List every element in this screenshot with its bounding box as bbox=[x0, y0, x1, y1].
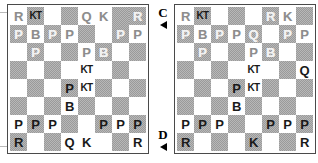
piece-white-king-g8[interactable]: K bbox=[283, 10, 292, 23]
square-d4[interactable]: P bbox=[61, 79, 78, 97]
square-h4[interactable] bbox=[129, 79, 146, 97]
square-f7[interactable] bbox=[262, 25, 279, 43]
piece-black-pawn-b2[interactable]: P bbox=[31, 118, 39, 131]
square-c7[interactable]: P bbox=[44, 25, 61, 43]
square-e5[interactable]: KT bbox=[245, 61, 262, 79]
square-e7[interactable] bbox=[78, 25, 95, 43]
square-f1[interactable] bbox=[95, 133, 112, 151]
square-b8[interactable]: KT bbox=[27, 7, 44, 25]
square-c3[interactable] bbox=[211, 97, 228, 115]
square-c7[interactable]: P bbox=[211, 25, 228, 43]
square-f1[interactable] bbox=[262, 133, 279, 151]
square-h5[interactable] bbox=[129, 61, 146, 79]
square-f6[interactable]: B bbox=[262, 43, 279, 61]
square-d6[interactable] bbox=[61, 43, 78, 61]
square-a3[interactable] bbox=[177, 97, 194, 115]
piece-white-pawn-d7[interactable]: P bbox=[232, 28, 240, 41]
square-c3[interactable] bbox=[44, 97, 61, 115]
square-f6[interactable]: B bbox=[95, 43, 112, 61]
square-c2[interactable]: P bbox=[211, 115, 228, 133]
square-g1[interactable] bbox=[112, 133, 129, 151]
square-a6[interactable] bbox=[177, 43, 194, 61]
square-a5[interactable] bbox=[177, 61, 194, 79]
square-d8[interactable] bbox=[61, 7, 78, 25]
piece-white-bishop-f6[interactable]: B bbox=[99, 46, 108, 59]
square-f7[interactable] bbox=[95, 25, 112, 43]
square-d2[interactable] bbox=[61, 115, 78, 133]
piece-black-pawn-h2[interactable]: P bbox=[133, 118, 141, 131]
square-a1[interactable]: R bbox=[177, 133, 194, 151]
piece-black-pawn-c2[interactable]: P bbox=[215, 118, 223, 131]
piece-black-rook-a1[interactable]: R bbox=[14, 136, 23, 149]
piece-black-pawn-a2[interactable]: P bbox=[181, 118, 189, 131]
square-d2[interactable] bbox=[228, 115, 245, 133]
square-d4[interactable]: P bbox=[228, 79, 245, 97]
square-g4[interactable] bbox=[279, 79, 296, 97]
piece-white-rook-f8[interactable]: R bbox=[266, 10, 275, 23]
square-a4[interactable] bbox=[177, 79, 194, 97]
square-c8[interactable] bbox=[211, 7, 228, 25]
square-d6[interactable] bbox=[228, 43, 245, 61]
piece-white-pawn-c7[interactable]: P bbox=[215, 28, 223, 41]
square-e7[interactable]: Q bbox=[245, 25, 262, 43]
square-e1[interactable]: K bbox=[78, 133, 95, 151]
piece-black-pawn-d4[interactable]: P bbox=[232, 82, 240, 95]
piece-black-knight-e4[interactable]: KT bbox=[80, 83, 92, 93]
square-h3[interactable] bbox=[296, 97, 313, 115]
square-e5[interactable]: KT bbox=[78, 61, 95, 79]
piece-white-pawn-e6[interactable]: P bbox=[249, 46, 257, 59]
square-d5[interactable] bbox=[61, 61, 78, 79]
piece-white-pawn-g7[interactable]: P bbox=[283, 28, 291, 41]
square-a1[interactable]: R bbox=[10, 133, 27, 151]
square-g1[interactable] bbox=[279, 133, 296, 151]
chess-board-left[interactable]: RKTQKRPBPPPPPPBKTPKTBPPPPPPRQKR bbox=[10, 7, 146, 151]
piece-white-king-f8[interactable]: K bbox=[99, 10, 108, 23]
square-h8[interactable] bbox=[296, 7, 313, 25]
piece-white-pawn-b6[interactable]: P bbox=[31, 46, 39, 59]
square-c6[interactable] bbox=[211, 43, 228, 61]
piece-black-pawn-f2[interactable]: P bbox=[266, 118, 274, 131]
square-c1[interactable] bbox=[211, 133, 228, 151]
piece-white-rook-h8[interactable]: R bbox=[133, 10, 142, 23]
square-b1[interactable] bbox=[194, 133, 211, 151]
square-f3[interactable] bbox=[262, 97, 279, 115]
square-d8[interactable] bbox=[228, 7, 245, 25]
square-h1[interactable]: R bbox=[129, 133, 146, 151]
square-e6[interactable]: P bbox=[245, 43, 262, 61]
piece-black-knight-b8[interactable]: KT bbox=[29, 11, 41, 21]
square-a2[interactable]: P bbox=[177, 115, 194, 133]
piece-black-pawn-g2[interactable]: P bbox=[116, 118, 124, 131]
square-h7[interactable]: P bbox=[296, 25, 313, 43]
piece-black-knight-e5[interactable]: KT bbox=[247, 65, 259, 75]
square-h2[interactable]: P bbox=[129, 115, 146, 133]
square-e3[interactable] bbox=[78, 97, 95, 115]
square-c5[interactable] bbox=[211, 61, 228, 79]
piece-white-bishop-b7[interactable]: B bbox=[31, 28, 40, 41]
square-e2[interactable] bbox=[78, 115, 95, 133]
square-h4[interactable] bbox=[296, 79, 313, 97]
square-h7[interactable]: P bbox=[129, 25, 146, 43]
square-d3[interactable]: B bbox=[61, 97, 78, 115]
square-c4[interactable] bbox=[211, 79, 228, 97]
square-b2[interactable]: P bbox=[27, 115, 44, 133]
piece-white-rook-a8[interactable]: R bbox=[14, 10, 23, 23]
square-a4[interactable] bbox=[10, 79, 27, 97]
square-f8[interactable]: K bbox=[95, 7, 112, 25]
square-f2[interactable]: P bbox=[262, 115, 279, 133]
square-g7[interactable]: P bbox=[112, 25, 129, 43]
square-b5[interactable] bbox=[27, 61, 44, 79]
piece-black-pawn-d4[interactable]: P bbox=[65, 82, 73, 95]
piece-white-queen-e8[interactable]: Q bbox=[82, 10, 92, 23]
piece-black-rook-h1[interactable]: R bbox=[133, 136, 142, 149]
square-h5[interactable]: Q bbox=[296, 61, 313, 79]
square-b5[interactable] bbox=[194, 61, 211, 79]
square-b8[interactable]: KT bbox=[194, 7, 211, 25]
square-c2[interactable]: P bbox=[44, 115, 61, 133]
piece-white-queen-e7[interactable]: Q bbox=[249, 28, 259, 41]
square-e2[interactable] bbox=[245, 115, 262, 133]
piece-black-king-e1[interactable]: K bbox=[249, 136, 258, 149]
square-f4[interactable] bbox=[262, 79, 279, 97]
square-b4[interactable] bbox=[194, 79, 211, 97]
piece-white-rook-a8[interactable]: R bbox=[181, 10, 190, 23]
piece-white-pawn-h7[interactable]: P bbox=[133, 28, 141, 41]
